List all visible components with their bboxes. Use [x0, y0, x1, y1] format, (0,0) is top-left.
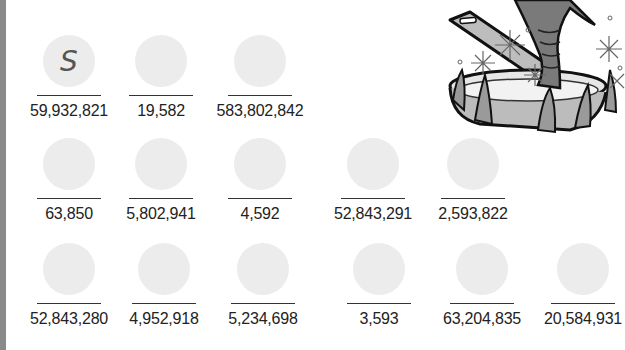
answer-circle[interactable]	[43, 138, 95, 190]
answer-circle[interactable]	[135, 35, 187, 87]
answer-line	[341, 198, 405, 199]
number-label: 5,234,698	[208, 310, 318, 328]
answer-line	[347, 303, 411, 304]
answer-circle[interactable]	[43, 243, 95, 295]
answer-circle[interactable]	[234, 35, 286, 87]
fish-in-frying-pan-icon	[420, 0, 625, 150]
problem-item: 3,593	[324, 243, 434, 323]
number-label: 19,582	[106, 102, 216, 120]
problem-item: 4,592	[205, 138, 315, 218]
answer-line	[551, 303, 615, 304]
answer-line	[228, 95, 292, 96]
answer-line	[441, 198, 505, 199]
page-edge-bar	[0, 0, 6, 350]
problem-item: 20,584,931	[528, 243, 625, 323]
problem-item: 52,843,280	[14, 243, 124, 323]
problem-item: 5,234,698	[208, 243, 318, 323]
answer-line	[228, 198, 292, 199]
problem-item: 2,593,822	[418, 138, 528, 218]
number-label: 4,952,918	[109, 310, 219, 328]
number-label: 3,593	[324, 310, 434, 328]
number-label: 583,802,842	[205, 102, 315, 120]
problem-item: 52,843,291	[318, 138, 428, 218]
answer-line	[231, 303, 295, 304]
answer-line	[37, 95, 101, 96]
answer-circle[interactable]	[234, 138, 286, 190]
problem-item: 4,952,918	[109, 243, 219, 323]
answer-circle[interactable]	[447, 138, 499, 190]
answer-circle[interactable]	[237, 243, 289, 295]
problem-item: 19,582	[106, 35, 216, 115]
answer-circle[interactable]	[557, 243, 609, 295]
number-label: 4,592	[205, 205, 315, 223]
answer-circle[interactable]	[138, 243, 190, 295]
answer-line	[450, 303, 514, 304]
problem-item: 583,802,842	[205, 35, 315, 115]
number-label: 52,843,280	[14, 310, 124, 328]
problem-item: 63,204,835	[427, 243, 537, 323]
answer-circle[interactable]	[135, 138, 187, 190]
number-label: 2,593,822	[418, 205, 528, 223]
number-label: 63,204,835	[427, 310, 537, 328]
answer-line	[129, 95, 193, 96]
number-label: 5,802,941	[106, 205, 216, 223]
answer-circle[interactable]	[456, 243, 508, 295]
problem-item: 5,802,941	[106, 138, 216, 218]
answer-line	[37, 303, 101, 304]
number-label: 52,843,291	[318, 205, 428, 223]
answer-line	[132, 303, 196, 304]
number-label: 20,584,931	[528, 310, 625, 328]
answer-circle[interactable]	[347, 138, 399, 190]
answer-circle[interactable]	[353, 243, 405, 295]
answer-circle[interactable]: S	[43, 35, 95, 87]
answer-line	[129, 198, 193, 199]
answer-line	[37, 198, 101, 199]
